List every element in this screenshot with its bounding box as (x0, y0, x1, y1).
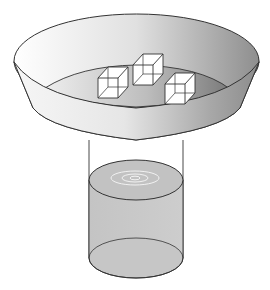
bowl-cylinder-diagram (0, 0, 270, 290)
cylinder (89, 140, 183, 278)
